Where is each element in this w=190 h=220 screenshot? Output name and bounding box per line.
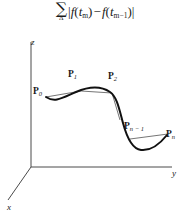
point-subscript: 2 <box>114 75 117 82</box>
point-subscript: 0 <box>39 90 42 97</box>
point-letter: P <box>68 69 74 79</box>
coordinate-plot <box>0 30 190 220</box>
point-label-p2: P2 <box>108 72 117 82</box>
chord-pnminus1-pn <box>130 134 168 139</box>
formula-body: |f(tm) − f(tm−1)| <box>68 5 134 18</box>
point-label-p1: P1 <box>68 70 77 80</box>
x-axis-label: x <box>7 203 11 212</box>
point-label-p0: P0 <box>33 87 42 97</box>
point-subscript: n <box>172 133 175 140</box>
subscript-m: m <box>82 11 88 20</box>
point-letter: P <box>124 121 130 131</box>
minus-sign: − <box>94 4 101 19</box>
function-curve <box>46 88 167 151</box>
point-letter: P <box>166 129 172 139</box>
point-label-pn: Pn <box>166 130 175 140</box>
y-axis-label: y <box>172 169 176 178</box>
abs-close-bar: | <box>132 4 135 19</box>
point-subscript: 1 <box>74 73 77 80</box>
rparen-first: ) <box>88 4 92 19</box>
x-axis <box>8 167 31 200</box>
point-letter: P <box>33 86 39 96</box>
point-label-pn-1: Pn − 1 <box>124 122 144 132</box>
variation-formula: ∑ Δ |f(tm) − f(tm−1)| <box>0 1 190 21</box>
point-subscript: n − 1 <box>130 125 144 132</box>
variation-sum-3d-curve-figure: ∑ Δ |f(tm) − f(tm−1)| z y x P0 P1 P2 Pn … <box>0 0 190 220</box>
point-letter: P <box>108 71 114 81</box>
summation-operator: ∑ Δ <box>56 2 67 22</box>
subscript-m-minus-1: m−1 <box>114 11 128 20</box>
z-axis-label: z <box>31 38 35 47</box>
